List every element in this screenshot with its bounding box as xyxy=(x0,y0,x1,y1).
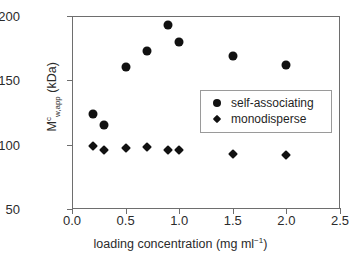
y-tick xyxy=(67,145,73,146)
data-point-diamond xyxy=(142,142,152,152)
legend-label-self-associating: self-associating xyxy=(227,96,314,110)
x-tick-label: 1.0 xyxy=(159,214,199,227)
y-tick-label: 200 xyxy=(0,10,20,23)
x-tick-label: 0.5 xyxy=(106,214,146,227)
y-axis-title-superscript: c xyxy=(44,117,53,121)
legend-label-monodisperse: monodisperse xyxy=(227,112,306,126)
x-axis-title-text: loading concentration (mg ml xyxy=(94,237,255,251)
x-axis-title-paren: ) xyxy=(263,237,267,251)
y-axis-title: Mcw,app (kDa) xyxy=(44,37,62,157)
circle-marker-icon xyxy=(207,99,227,107)
data-point-diamond xyxy=(228,149,238,159)
x-axis-line xyxy=(72,208,340,209)
data-point-circle xyxy=(100,121,109,130)
y-tick-label: 100 xyxy=(0,139,20,152)
data-point-circle xyxy=(175,37,184,46)
data-point-diamond xyxy=(121,143,131,153)
x-tick-label: 2.0 xyxy=(266,214,306,227)
data-point-circle xyxy=(228,51,237,60)
data-point-circle xyxy=(89,109,98,118)
data-point-circle xyxy=(121,63,130,72)
data-point-diamond xyxy=(174,146,184,156)
x-axis-title-exponent: −1 xyxy=(254,236,263,245)
y-axis-title-subscript: w,app xyxy=(53,96,62,117)
data-point-circle xyxy=(143,46,152,55)
right-spine xyxy=(339,16,340,209)
data-point-diamond xyxy=(281,150,291,160)
x-tick-label: 1.5 xyxy=(213,214,253,227)
legend-item-monodisperse: monodisperse xyxy=(207,111,325,127)
data-point-circle xyxy=(164,21,173,30)
y-tick xyxy=(67,16,73,17)
data-point-diamond xyxy=(88,141,98,151)
y-tick xyxy=(67,80,73,81)
x-axis-title: loading concentration (mg ml−1) xyxy=(0,236,361,251)
scatter-plot-figure: 50100150200 0.00.51.01.52.02.5 Mcw,app (… xyxy=(0,0,361,265)
diamond-marker-icon xyxy=(207,116,227,122)
top-spine xyxy=(72,16,340,17)
legend-box: self-associating monodisperse xyxy=(200,90,332,133)
legend-item-self-associating: self-associating xyxy=(207,95,325,111)
data-point-diamond xyxy=(164,145,174,155)
y-axis-line xyxy=(72,16,73,209)
y-axis-title-units: (kDa) xyxy=(45,62,59,96)
data-point-circle xyxy=(282,60,291,69)
data-point-diamond xyxy=(99,145,109,155)
y-axis-title-base: M xyxy=(45,121,59,131)
x-tick-label: 0.0 xyxy=(52,214,92,227)
x-tick-label: 2.5 xyxy=(320,214,360,227)
y-tick-label: 150 xyxy=(0,74,20,87)
y-tick-label: 50 xyxy=(6,203,20,216)
